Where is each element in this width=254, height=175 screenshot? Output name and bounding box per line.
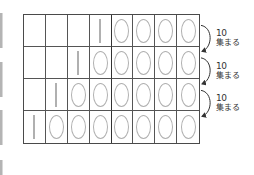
arrow-label: 10集まる: [216, 94, 240, 112]
digit-zero: [114, 51, 129, 75]
grid-cell: [155, 111, 177, 143]
edge-bar: [0, 62, 3, 97]
digit-zero: [93, 83, 108, 107]
arrow-label: 10集まる: [216, 62, 240, 80]
digit-zero: [136, 115, 151, 139]
grid-cell: [177, 79, 199, 111]
grid-cell: [112, 47, 134, 79]
grid-cell: [155, 15, 177, 47]
grid-cell: [24, 47, 46, 79]
grid-cell: [90, 79, 112, 111]
grid-cell: [24, 79, 46, 111]
grid-cell: [177, 111, 199, 143]
digit-zero: [71, 83, 86, 107]
grid-cell: [155, 47, 177, 79]
digit-zero: [71, 115, 86, 139]
arrow-label-text: 集まる: [216, 71, 240, 80]
grid-cell: [133, 79, 155, 111]
digit-zero: [181, 83, 196, 107]
grid-cell: [68, 47, 90, 79]
arrow-label-text: 集まる: [216, 103, 240, 112]
digit-zero: [114, 83, 129, 107]
digit-one: [55, 83, 57, 107]
digit-zero: [158, 115, 173, 139]
grid-cell: [112, 111, 134, 143]
grid-cell: [133, 15, 155, 47]
grid-cell: [155, 79, 177, 111]
digit-zero: [93, 51, 108, 75]
curved-arrow: [201, 90, 210, 116]
digit-zero: [114, 19, 129, 43]
grid-cell: [177, 47, 199, 79]
digit-one: [77, 51, 79, 75]
edge-bar: [0, 160, 3, 175]
grid-cell: [112, 79, 134, 111]
place-value-grid: [23, 14, 200, 144]
grid-cell: [46, 15, 68, 47]
digit-zero: [158, 83, 173, 107]
digit-zero: [136, 51, 151, 75]
digit-zero: [158, 19, 173, 43]
arrow-label-text: 集まる: [216, 38, 240, 47]
grid-cell: [133, 111, 155, 143]
grid-cell: [90, 111, 112, 143]
digit-zero: [93, 115, 108, 139]
edge-bar: [0, 13, 3, 48]
digit-zero: [49, 115, 64, 139]
grid-cell: [46, 47, 68, 79]
curved-arrow: [201, 58, 210, 84]
grid-cell: [46, 111, 68, 143]
grid-cell: [24, 111, 46, 143]
grid-cell: [68, 15, 90, 47]
digit-zero: [181, 51, 196, 75]
digit-zero: [114, 115, 129, 139]
grid-cell: [90, 47, 112, 79]
grid-cell: [133, 47, 155, 79]
digit-zero: [136, 83, 151, 107]
grid-cell: [90, 15, 112, 47]
digit-zero: [158, 51, 173, 75]
arrow-label: 10集まる: [216, 29, 240, 47]
digit-zero: [136, 19, 151, 43]
grid-cell: [112, 15, 134, 47]
curved-arrow: [201, 25, 210, 51]
grid-cell: [68, 111, 90, 143]
grid-cell: [68, 79, 90, 111]
arrow-label-count: 10: [216, 62, 240, 71]
grid-cell: [46, 79, 68, 111]
grid-cell: [24, 15, 46, 47]
grid-cell: [177, 15, 199, 47]
digit-one: [99, 19, 101, 43]
edge-bar: [0, 110, 3, 145]
digit-zero: [181, 115, 196, 139]
digit-zero: [181, 19, 196, 43]
digit-one: [33, 115, 35, 139]
